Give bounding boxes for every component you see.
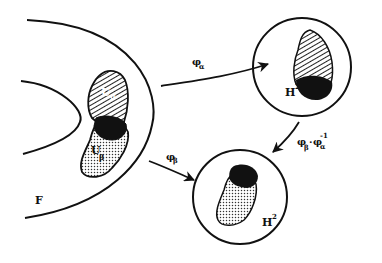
label-transition-dot: · (309, 136, 312, 147)
label-disk-top-h: H (285, 86, 295, 99)
label-u-beta-sub: β (99, 152, 104, 162)
arrow-phi-alpha (161, 64, 268, 86)
arrow-transition (273, 122, 299, 152)
label-u-alpha-sub: α (110, 91, 116, 101)
label-phi-beta-sub: β (173, 156, 178, 165)
manifold-outer-curve (25, 20, 154, 218)
label-manifold-f: F (35, 194, 43, 207)
disk-top-black-region (296, 76, 332, 100)
label-disk-bottom-sup: 2 (272, 212, 277, 221)
label-phi-alpha-sub: α (199, 62, 205, 71)
label-disk-bottom-h: H (262, 216, 272, 229)
label-transition-sub2: α (320, 142, 326, 151)
chart-transition-diagram: U α U β F H 2 H 2 φ α φ β φ β · φ α -1 (0, 0, 382, 263)
manifold-inner-curve (21, 81, 81, 154)
label-disk-top-sup: 2 (295, 82, 300, 91)
label-transition-sup2: -1 (320, 131, 328, 140)
arrow-phi-beta (149, 161, 194, 180)
